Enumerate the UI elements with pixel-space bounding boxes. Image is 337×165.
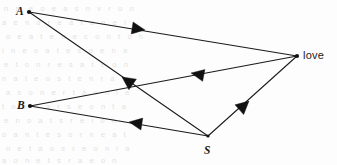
edge-s-to-a [29, 12, 208, 136]
edge-love-to-b [30, 56, 297, 106]
node-dot-love [295, 54, 299, 58]
node-dot-s [206, 134, 209, 137]
arrowhead-a-to-love [131, 22, 146, 36]
edge-s-to-b [30, 106, 208, 136]
diagram-canvas: n m e o e a s n v r o n a e n o r e a t … [0, 0, 337, 165]
graph-svg [0, 0, 337, 165]
arrowhead-s-to-love [235, 96, 253, 114]
node-label-b: B [17, 100, 25, 112]
node-label-s: S [204, 145, 211, 157]
arrowhead-love-to-b [190, 67, 205, 81]
edge-a-to-love [29, 12, 297, 56]
node-dot-b [28, 104, 32, 108]
arrowhead-s-to-b [128, 116, 143, 130]
node-label-love: love [303, 50, 324, 61]
edge-s-to-love [208, 56, 297, 136]
node-dot-a [27, 10, 31, 14]
node-label-a: A [16, 6, 24, 18]
